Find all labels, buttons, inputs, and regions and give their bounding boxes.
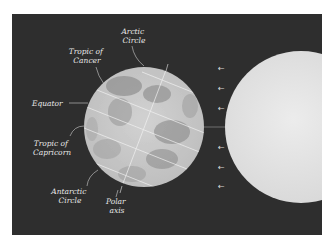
tropic-of-cancer-leader xyxy=(96,67,104,84)
polar-axis-south-tip xyxy=(120,186,122,193)
label-tropic-of-cancer: Tropic of Cancer xyxy=(69,47,106,65)
tropic-of-capricorn-leader xyxy=(70,126,84,136)
label-arctic-circle: Arctic Circle xyxy=(120,27,146,45)
polar-axis-north-tip xyxy=(166,64,168,71)
sunlight-arrow: ← xyxy=(218,182,225,191)
sunlight-arrow: ← xyxy=(218,143,225,152)
sunlight-arrow: ← xyxy=(218,163,225,172)
earth xyxy=(72,64,222,193)
sunlight-arrow: ← xyxy=(218,64,225,73)
label-polar-axis: Polar axis xyxy=(105,197,128,215)
antarctic-circle-leader xyxy=(87,170,98,186)
sunlight-arrows: ← ← ← ← ← ← xyxy=(218,64,225,191)
arctic-circle-leader xyxy=(132,46,144,66)
diagram-panel: ← ← ← ← ← ← Arctic Circle Tropic of Canc… xyxy=(12,14,322,235)
label-antarctic-circle: Antarctic Circle xyxy=(50,187,89,205)
label-equator: Equator xyxy=(31,99,63,108)
sun xyxy=(225,51,322,203)
polar-axis-leader xyxy=(116,190,118,197)
sunlight-arrow: ← xyxy=(218,104,225,113)
sunlight-arrow: ← xyxy=(218,84,225,93)
earth-sun-diagram: ← ← ← ← ← ← Arctic Circle Tropic of Canc… xyxy=(12,14,322,235)
label-tropic-of-capricorn: Tropic of Capricorn xyxy=(33,139,71,157)
